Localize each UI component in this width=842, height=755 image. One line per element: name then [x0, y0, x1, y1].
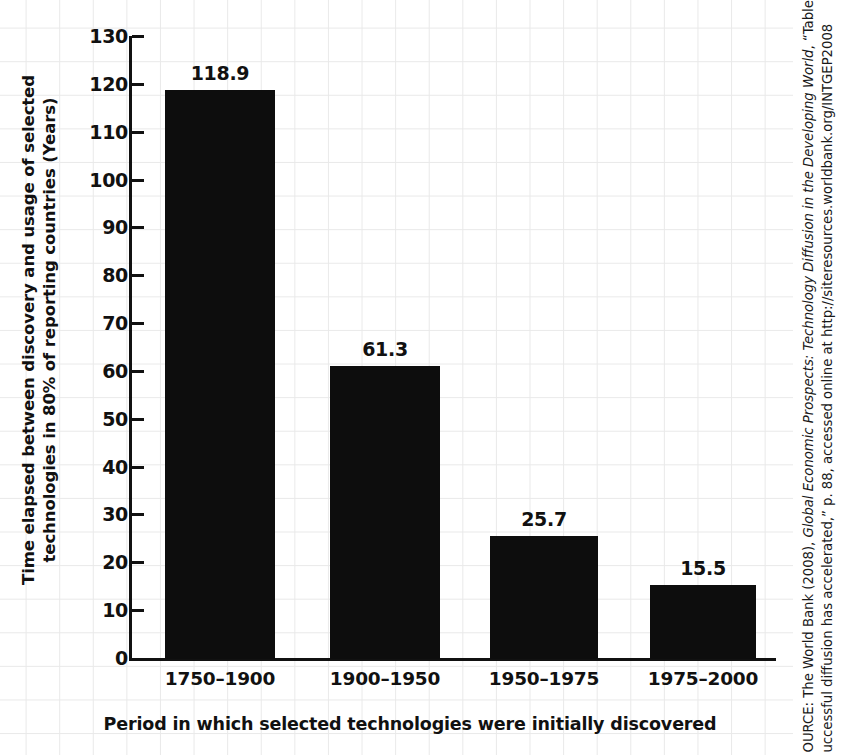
- y-axis-tick-label: 70: [8, 312, 128, 334]
- y-axis-tick-label: 60: [8, 360, 128, 382]
- y-axis-tick-label: 20: [8, 551, 128, 573]
- x-axis-tick-label: 1950–1975: [489, 668, 599, 689]
- source-note-line-1-suffix: , “Table 2.14,: [801, 0, 816, 49]
- x-axis-tick-label: 1750–1900: [165, 668, 275, 689]
- y-axis-tick-label: 90: [8, 216, 128, 238]
- y-axis-tick-mark: [132, 418, 144, 421]
- source-note-line-1-title: Global Economic Prospects: Technology Di…: [801, 49, 816, 537]
- x-axis-title: Period in which selected technologies we…: [60, 714, 760, 734]
- bar-group[interactable]: 15.5: [650, 36, 756, 659]
- y-axis-tick-mark: [132, 83, 144, 86]
- bar-value-label: 61.3: [362, 338, 408, 360]
- y-axis-tick-mark: [132, 322, 144, 325]
- y-axis-tick-mark: [132, 466, 144, 469]
- bar-group[interactable]: 61.3: [330, 36, 440, 659]
- y-axis-tick-labels: 0102030405060708090100110120130: [0, 0, 128, 700]
- source-note-line-1: OURCE: The World Bank (2008), Global Eco…: [799, 0, 818, 752]
- y-axis-tick-mark: [132, 609, 144, 612]
- bar[interactable]: [490, 536, 598, 659]
- x-axis-tick-labels: 1750–19001900–19501950–19751975–2000: [132, 668, 776, 702]
- y-axis-tick-label: 50: [8, 408, 128, 430]
- y-axis-tick-mark: [132, 370, 144, 373]
- y-axis-tick-label: 10: [8, 599, 128, 621]
- bar-value-label: 15.5: [680, 557, 726, 579]
- plot-area: 118.961.325.715.5: [132, 36, 776, 659]
- bar[interactable]: [330, 366, 440, 659]
- source-note-line-2: uccessful diffusion has accelerated,” p.…: [818, 0, 837, 752]
- bar[interactable]: [650, 585, 756, 659]
- bar-group[interactable]: 118.9: [165, 36, 275, 659]
- y-axis-tick-label: 80: [8, 264, 128, 286]
- bar-group[interactable]: 25.7: [490, 36, 598, 659]
- y-axis-tick-label: 30: [8, 503, 128, 525]
- y-axis-tick-mark: [132, 35, 144, 38]
- bar[interactable]: [165, 90, 275, 659]
- y-axis-tick-label: 120: [8, 73, 128, 95]
- y-axis-tick-label: 40: [8, 456, 128, 478]
- source-note: OURCE: The World Bank (2008), Global Eco…: [794, 0, 842, 755]
- y-axis-tick-mark: [132, 226, 144, 229]
- y-axis-tick-label: 0: [8, 647, 128, 669]
- y-axis-tick-mark: [132, 179, 144, 182]
- bar-value-label: 25.7: [521, 508, 567, 530]
- x-axis-tick-label: 1975–2000: [648, 668, 758, 689]
- y-axis-tick-label: 130: [8, 25, 128, 47]
- y-axis-tick-mark: [132, 274, 144, 277]
- bar-value-label: 118.9: [191, 62, 250, 84]
- y-axis-tick-mark: [132, 131, 144, 134]
- y-axis-tick-label: 110: [8, 121, 128, 143]
- bar-chart: Time elapsed between discovery and usage…: [0, 0, 793, 755]
- source-note-line-1-prefix: OURCE: The World Bank (2008),: [801, 537, 816, 752]
- y-axis-tick-mark: [132, 561, 144, 564]
- x-axis-tick-label: 1900–1950: [330, 668, 440, 689]
- y-axis-tick-mark: [132, 513, 144, 516]
- y-axis-tick-label: 100: [8, 169, 128, 191]
